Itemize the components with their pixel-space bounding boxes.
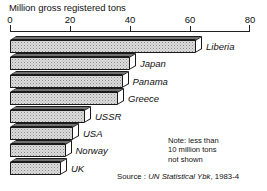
- bar-top-face-panama: [10, 71, 129, 75]
- bar-top-face-liberia: [10, 36, 202, 40]
- bar-front-face-norway: [10, 144, 66, 157]
- bar-label-panama: Panama: [133, 75, 168, 88]
- x-axis-tick-mark-20: [70, 26, 71, 32]
- bar-row: USA: [0, 123, 267, 140]
- bar-row: Japan: [0, 53, 267, 70]
- chart-source: Source : UN Statistical Ybk, 1983-4: [117, 172, 239, 181]
- x-axis-tick-label-40: 40: [125, 14, 136, 25]
- source-year: , 1983-4: [210, 172, 239, 181]
- bar-label-greece: Greece: [128, 92, 159, 105]
- source-prefix: Source :: [117, 172, 148, 181]
- x-axis-tick-mark-60: [190, 26, 191, 32]
- x-axis: 020406080: [0, 14, 267, 36]
- x-axis-tick-label-80: 80: [245, 14, 256, 25]
- bar-top-face-ussr: [10, 106, 91, 110]
- bar-label-uk: UK: [71, 162, 84, 175]
- merchant-fleet-bar-chart: Million gross registered tons 020406080 …: [0, 0, 267, 191]
- bar-end-cap-norway: [65, 140, 72, 157]
- bar-front-face-liberia: [10, 40, 196, 53]
- bar-label-japan: Japan: [140, 57, 166, 70]
- bar-label-ussr: USSR: [95, 110, 121, 123]
- note-line-1: Note: less than: [168, 136, 219, 145]
- bar-end-cap-japan: [129, 53, 136, 70]
- bar-front-face-usa: [10, 127, 73, 140]
- bar-front-face-uk: [10, 162, 61, 175]
- bar-label-usa: USA: [83, 127, 103, 140]
- bar-row: Norway: [0, 140, 267, 157]
- bar-end-cap-usa: [72, 123, 79, 140]
- bars-plot-area: LiberiaJapanPanamaGreeceUSSRUSANorwayUK: [0, 36, 267, 186]
- bar-top-face-japan: [10, 53, 136, 57]
- x-axis-tick-mark-0: [10, 25, 11, 32]
- bar-top-face-norway: [10, 140, 72, 144]
- bar-label-liberia: Liberia: [206, 40, 235, 53]
- bar-label-norway: Norway: [76, 144, 108, 157]
- bar-row: Panama: [0, 71, 267, 88]
- bar-row: Greece: [0, 88, 267, 105]
- bar-front-face-ussr: [10, 110, 85, 123]
- bar-front-face-japan: [10, 57, 130, 70]
- x-axis-tick-label-60: 60: [185, 14, 196, 25]
- bar-row: USSR: [0, 106, 267, 123]
- bar-end-cap-panama: [122, 71, 129, 88]
- x-axis-tick-mark-40: [130, 26, 131, 32]
- note-line-3: not shown: [168, 155, 219, 164]
- bar-end-cap-uk: [60, 158, 67, 175]
- bar-top-face-uk: [10, 158, 67, 162]
- chart-note: Note: less than 10 million tons not show…: [168, 136, 219, 164]
- x-axis-tick-label-0: 0: [7, 14, 12, 25]
- bar-end-cap-liberia: [195, 36, 202, 53]
- x-axis-tick-mark-80: [249, 25, 250, 32]
- bar-top-face-greece: [10, 88, 124, 92]
- bar-top-face-usa: [10, 123, 79, 127]
- chart-title: Million gross registered tons: [9, 2, 126, 13]
- x-axis-tick-label-20: 20: [65, 14, 76, 25]
- bar-end-cap-greece: [117, 88, 124, 105]
- bar-front-face-panama: [10, 75, 123, 88]
- bar-front-face-greece: [10, 92, 118, 105]
- bar-row: Liberia: [0, 36, 267, 53]
- bar-end-cap-ussr: [84, 106, 91, 123]
- source-publication: UN Statistical Ybk: [148, 172, 210, 181]
- note-line-2: 10 million tons: [168, 145, 219, 154]
